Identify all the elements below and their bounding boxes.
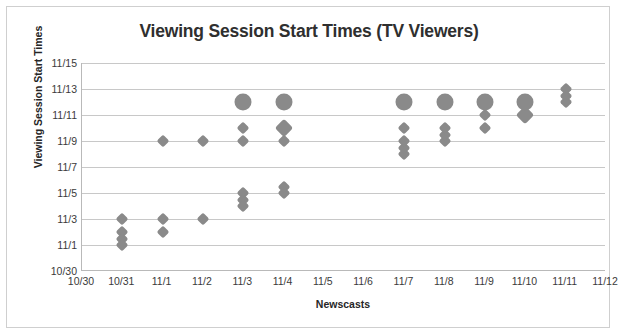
x-tick-label: 11/8 xyxy=(421,275,467,287)
y-tick-label: 11/5 xyxy=(23,187,77,199)
data-point xyxy=(398,122,411,135)
x-tick-label: 11/6 xyxy=(340,275,386,287)
y-tick-label: 11/13 xyxy=(23,83,77,95)
y-tick-label: 11/11 xyxy=(23,109,77,121)
x-tick-label: 11/9 xyxy=(461,275,507,287)
plot-area xyxy=(81,63,605,271)
y-tick-label: 11/9 xyxy=(23,135,77,147)
data-point xyxy=(237,122,250,135)
data-point xyxy=(479,109,492,122)
data-point xyxy=(479,122,492,135)
x-axis-title: Newscasts xyxy=(81,298,605,310)
x-tick-label: 10/30 xyxy=(58,275,104,287)
chart-title: Viewing Session Start Times (TV Viewers) xyxy=(7,21,611,42)
data-point xyxy=(277,135,290,148)
x-tick-label: 11/11 xyxy=(542,275,588,287)
y-axis-tick-labels: 11/1511/1311/1111/911/711/511/311/110/30 xyxy=(19,63,77,271)
data-point xyxy=(274,119,292,137)
data-point xyxy=(116,213,129,226)
x-tick-label: 11/4 xyxy=(260,275,306,287)
data-point xyxy=(396,94,413,111)
x-tick-label: 11/5 xyxy=(300,275,346,287)
data-point xyxy=(156,226,169,239)
gridline xyxy=(82,89,605,90)
x-tick-label: 11/2 xyxy=(179,275,225,287)
data-point xyxy=(235,94,252,111)
data-point xyxy=(156,135,169,148)
x-tick-label: 11/1 xyxy=(139,275,185,287)
y-tick-label: 11/15 xyxy=(23,57,77,69)
y-tick-label: 11/3 xyxy=(23,213,77,225)
data-point xyxy=(436,94,453,111)
x-tick-label: 10/31 xyxy=(98,275,144,287)
chart-frame: Viewing Session Start Times (TV Viewers)… xyxy=(6,6,610,328)
data-point xyxy=(197,213,210,226)
data-point xyxy=(477,94,494,111)
y-tick-label: 11/7 xyxy=(23,161,77,173)
x-tick-label: 11/7 xyxy=(380,275,426,287)
data-point xyxy=(517,94,534,111)
x-tick-label: 11/12 xyxy=(582,275,618,287)
gridline xyxy=(82,193,605,194)
x-axis-tick-labels: 10/3010/3111/111/211/311/411/511/611/711… xyxy=(81,275,605,291)
x-tick-label: 11/10 xyxy=(501,275,547,287)
gridline xyxy=(82,167,605,168)
gridline xyxy=(82,63,605,64)
data-point xyxy=(197,135,210,148)
data-point xyxy=(156,213,169,226)
x-tick-label: 11/3 xyxy=(219,275,265,287)
data-point xyxy=(237,135,250,148)
y-tick-label: 11/1 xyxy=(23,239,77,251)
gridline xyxy=(82,245,605,246)
data-point xyxy=(275,94,292,111)
